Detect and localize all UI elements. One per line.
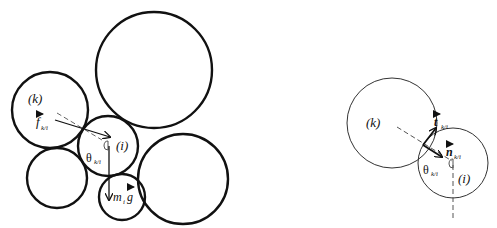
- force-label: f k/i: [36, 114, 48, 132]
- svg-text:θ: θ: [423, 163, 429, 177]
- label-i-left: (i): [116, 138, 128, 153]
- svg-text:i: i: [123, 198, 125, 206]
- svg-text:k/i: k/i: [94, 158, 101, 166]
- tangent-label: t k/i: [433, 114, 448, 131]
- theta-label-left: θ k/i: [86, 151, 101, 166]
- svg-text:m: m: [113, 190, 122, 204]
- label-k-right: (k): [366, 115, 380, 130]
- tangent-arrow: [423, 128, 436, 145]
- normal-arrow: [423, 145, 442, 157]
- weight-label: m i g: [113, 187, 134, 206]
- label-k-left: (k): [28, 91, 42, 106]
- bottom-left-particle: [27, 148, 87, 208]
- svg-text:n: n: [446, 145, 453, 159]
- particle-k-right: [347, 78, 437, 168]
- svg-text:θ: θ: [86, 151, 92, 165]
- particle-contact-diagram: (k) (i) f k/i θ k/i m i g (k) (i) t k/i …: [0, 0, 497, 228]
- svg-text:k/i: k/i: [441, 123, 448, 131]
- right-particle: [138, 134, 228, 224]
- large-top-particle: [96, 12, 212, 128]
- particle-k: [12, 72, 88, 148]
- svg-text:k/i: k/i: [454, 153, 461, 161]
- svg-text:k/i: k/i: [41, 124, 48, 132]
- bottom-small-particle: [99, 174, 145, 220]
- theta-arc-icon-right: [449, 159, 453, 168]
- label-i-right: (i): [458, 171, 470, 186]
- force-arrow: [55, 120, 110, 137]
- svg-text:k/i: k/i: [431, 170, 438, 178]
- svg-text:g: g: [127, 190, 133, 204]
- normal-label: n k/i: [446, 144, 461, 161]
- theta-label-right: θ k/i: [423, 163, 438, 178]
- theta-arc-icon: [104, 141, 108, 150]
